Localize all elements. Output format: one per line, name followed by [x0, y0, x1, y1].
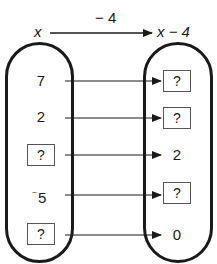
output-answer-box[interactable]: ?: [163, 70, 191, 92]
output-answer-box[interactable]: ?: [163, 107, 191, 129]
output-value: 0: [162, 225, 192, 245]
input-answer-box[interactable]: ?: [27, 223, 55, 245]
output-value: 2: [162, 145, 192, 165]
input-value: 5: [38, 189, 46, 206]
input-value: 2: [26, 107, 56, 127]
input-value: 7: [26, 71, 56, 91]
input-answer-box[interactable]: ?: [27, 144, 55, 166]
output-answer-box[interactable]: ?: [163, 182, 191, 204]
input-value-negative: ⁻5: [24, 185, 54, 208]
negative-sign: ⁻: [32, 189, 37, 200]
